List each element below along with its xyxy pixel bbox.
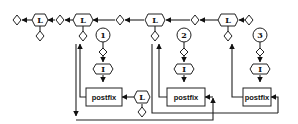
diamond-node [56,15,64,25]
svg-text:I: I [258,64,262,74]
l-down-edges [40,26,228,31]
diamond-node [180,48,188,56]
svg-text:I: I [182,64,186,74]
diamond-node [245,15,253,25]
diamond-node [79,31,87,41]
svg-text:L: L [80,15,86,25]
l-node-b: L [73,14,93,26]
svg-text:L: L [37,15,43,25]
svg-text:I: I [101,64,105,74]
branch-2: 2 I postfix [167,28,205,106]
diamond-node [116,15,124,25]
svg-text:3: 3 [257,30,263,40]
svg-text:postfix: postfix [174,93,199,102]
svg-text:postfix: postfix [92,93,117,102]
svg-text:L: L [225,15,231,25]
under-l-diamonds [36,31,232,41]
branch-1-edges [76,42,213,120]
diamond-node [99,48,107,56]
l-node-a: L [32,14,48,26]
branch-1: 1 I postfix [86,28,122,106]
l-node-c: L [145,14,165,26]
svg-text:2: 2 [181,30,187,40]
svg-text:L: L [139,92,145,102]
diamond-node [151,31,159,41]
diamond-node [36,31,44,41]
svg-text:L: L [152,15,158,25]
diamond-node [138,107,146,117]
diamond-node [256,48,264,56]
diamond-node [191,15,199,25]
branch-3: 3 I postfix [243,28,271,106]
svg-text:postfix: postfix [245,93,270,102]
diamond-node [13,15,21,25]
svg-text:1: 1 [100,30,106,40]
diamond-node [224,31,232,41]
l-node-d: L [218,14,238,26]
flow-diagram: L L L L 1 I postfix L 2 I postfix [0,0,298,124]
